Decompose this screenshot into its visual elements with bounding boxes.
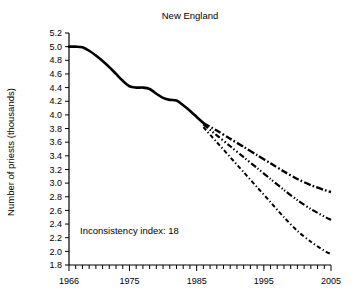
series-line-projection-low (203, 127, 331, 254)
y-tick-label: 3.8 (49, 124, 62, 134)
y-tick-label: 2.4 (49, 219, 62, 229)
y-tick-label: 4.6 (49, 69, 62, 79)
chart-figure: New England Number of priests (thousands… (0, 0, 353, 304)
annotation-inconsistency-index: Inconsistency index: 18 (80, 225, 179, 236)
y-tick-label: 3.4 (49, 151, 62, 161)
y-tick-label: 4.0 (49, 110, 62, 120)
series-line-projection-high (203, 123, 331, 192)
y-tick-label: 2.0 (49, 247, 62, 257)
x-tick-label: 1985 (187, 276, 207, 286)
y-tick-label: 1.8 (49, 260, 62, 270)
y-tick-label: 3.6 (49, 137, 62, 147)
x-axis: 19661975198519952005 (59, 265, 341, 286)
y-tick-label: 4.4 (49, 83, 62, 93)
y-tick-label: 2.2 (49, 233, 62, 243)
x-tick-label: 1966 (59, 276, 79, 286)
series-line-projection-mid (203, 124, 331, 220)
chart-title: New England (162, 10, 219, 21)
y-tick-label: 4.8 (49, 55, 62, 65)
y-tick-label: 3.2 (49, 165, 62, 175)
y-axis-label: Number of priests (thousands) (5, 88, 16, 216)
x-axis-ticks: 19661975198519952005 (59, 265, 341, 286)
y-tick-label: 5.2 (49, 28, 62, 38)
x-tick-label: 2005 (321, 276, 341, 286)
y-axis-ticks: 5.25.04.84.64.44.24.03.83.63.43.23.02.82… (49, 28, 69, 270)
y-tick-label: 5.0 (49, 42, 62, 52)
y-axis: 5.25.04.84.64.44.24.03.83.63.43.23.02.82… (49, 28, 69, 270)
x-tick-label: 1975 (119, 276, 139, 286)
y-tick-label: 2.6 (49, 206, 62, 216)
chart-canvas: New England Number of priests (thousands… (0, 0, 353, 304)
x-tick-label: 1995 (254, 276, 274, 286)
chart-series (69, 47, 331, 254)
y-tick-label: 2.8 (49, 192, 62, 202)
series-line-historical (69, 47, 203, 123)
y-tick-label: 4.2 (49, 96, 62, 106)
y-tick-label: 3.0 (49, 178, 62, 188)
chart-annotations: Inconsistency index: 18 (80, 225, 179, 236)
